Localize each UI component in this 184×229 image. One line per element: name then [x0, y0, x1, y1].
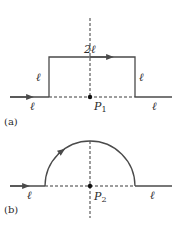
- label-left-side-l: ℓ: [36, 71, 41, 84]
- label-point-p2: P2: [93, 190, 107, 204]
- label-bottom-right-l: ℓ: [152, 100, 157, 113]
- diagram: 2ℓ ℓ ℓ ℓ ℓ P1 (a) ℓ ℓ P2 (b): [0, 0, 184, 229]
- caption-b: (b): [4, 204, 18, 215]
- label-right-side-l: ℓ: [139, 71, 144, 84]
- label-point-p1: P1: [93, 100, 107, 114]
- caption-a: (a): [4, 116, 18, 127]
- point-p2-dot: [88, 184, 92, 188]
- label-bottom-left-l-b: ℓ: [27, 189, 32, 202]
- label-bottom-right-l-b: ℓ: [150, 189, 155, 202]
- figure-a: 2ℓ ℓ ℓ ℓ ℓ P1 (a): [4, 18, 172, 127]
- figure-b: ℓ ℓ P2 (b): [4, 141, 172, 218]
- label-top-2l: 2ℓ: [83, 43, 96, 56]
- wire-rectangle-loop: [49, 57, 135, 97]
- current-arrow-arc-b: [58, 151, 62, 154]
- point-p1-dot: [88, 95, 92, 99]
- label-bottom-left-l: ℓ: [30, 100, 35, 113]
